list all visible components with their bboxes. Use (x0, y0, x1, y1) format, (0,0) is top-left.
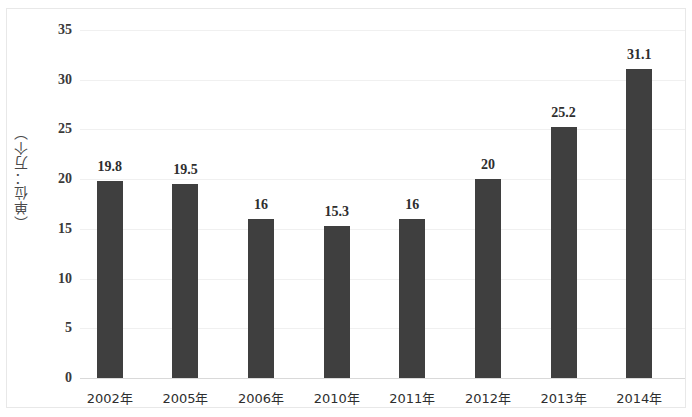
bar[interactable] (551, 127, 577, 378)
bar[interactable] (399, 219, 425, 378)
x-axis-tick-label: 2012年 (450, 392, 526, 405)
bar-value-label: 20 (453, 158, 523, 172)
x-axis-tick-label: 2005年 (147, 392, 223, 405)
x-axis-tick-label: 2014年 (601, 392, 677, 405)
y-axis-tick-label: 15 (32, 222, 72, 236)
bar-value-label: 19.5 (150, 163, 220, 177)
bar[interactable] (626, 69, 652, 378)
bar-value-label: 31.1 (604, 48, 674, 62)
gridline (80, 129, 685, 130)
bar-value-label: 16 (377, 198, 447, 212)
y-axis-tick-label: 10 (32, 272, 72, 286)
bar[interactable] (324, 226, 350, 378)
x-axis-tick-label: 2011年 (374, 392, 450, 405)
gridline (80, 378, 685, 379)
x-axis-tick-label: 2010年 (299, 392, 375, 405)
x-axis-tick-label: 2006年 (223, 392, 299, 405)
bar-value-label: 25.2 (529, 106, 599, 120)
y-axis-tick-label: 0 (32, 371, 72, 385)
y-axis-tick-label: 20 (32, 172, 72, 186)
gridline (80, 30, 685, 31)
gridline (80, 179, 685, 180)
gridline (80, 229, 685, 230)
x-axis-tick-label: 2002年 (72, 392, 148, 405)
bar[interactable] (97, 181, 123, 378)
x-axis-tick-label: 2013年 (526, 392, 602, 405)
gridline (80, 328, 685, 329)
bar[interactable] (172, 184, 198, 378)
gridline (80, 279, 685, 280)
bar[interactable] (475, 179, 501, 378)
y-axis-tick-label: 5 (32, 321, 72, 335)
gridline (80, 80, 685, 81)
bar-value-label: 15.3 (302, 205, 372, 219)
bar[interactable] (248, 219, 274, 378)
y-axis-tick-label: 30 (32, 73, 72, 87)
y-axis-tick-label: 25 (32, 122, 72, 136)
bar-value-label: 16 (226, 198, 296, 212)
y-axis-tick-label: 35 (32, 23, 72, 37)
bar-value-label: 19.8 (75, 160, 145, 174)
bar-chart: （单位：万个） 05101520253035 19.819.51615.3162… (0, 0, 692, 417)
